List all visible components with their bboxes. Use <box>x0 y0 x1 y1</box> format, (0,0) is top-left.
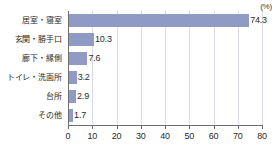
bar-value-label: 3.2 <box>78 71 90 84</box>
x-axis-tick-label: 20 <box>105 131 129 141</box>
chart-row: 台所2.9 <box>0 87 274 106</box>
category-label: 玄関・勝手口 <box>0 30 62 49</box>
chart-row: 玄関・勝手口10.3 <box>0 30 274 49</box>
category-label: 居室・寝室 <box>0 11 62 30</box>
x-axis-tick-label: 60 <box>202 131 226 141</box>
x-axis-tick <box>262 125 263 129</box>
bar-chart: (%) 01020304050607080居室・寝室74.3玄関・勝手口10.3… <box>0 0 274 145</box>
bar <box>69 71 77 84</box>
x-axis-tick <box>165 125 166 129</box>
bar-value-label: 10.3 <box>95 33 112 46</box>
bar-value-label: 2.9 <box>77 90 89 103</box>
x-axis-tick-label: 50 <box>177 131 201 141</box>
x-axis-tick <box>238 125 239 129</box>
x-axis-tick <box>141 125 142 129</box>
chart-row: トイレ・洗面所3.2 <box>0 68 274 87</box>
unit-label: (%) <box>260 2 272 11</box>
bar <box>69 109 73 122</box>
chart-row: 廊下・縁側7.6 <box>0 49 274 68</box>
category-label: 廊下・縁側 <box>0 49 62 68</box>
bar <box>69 14 249 27</box>
x-axis-tick <box>68 125 69 129</box>
x-axis-tick <box>189 125 190 129</box>
x-axis-tick-label: 30 <box>129 131 153 141</box>
bar-value-label: 1.7 <box>74 109 86 122</box>
bar <box>69 33 94 46</box>
bar <box>69 52 87 65</box>
x-axis-tick-label: 40 <box>153 131 177 141</box>
x-axis-tick-label: 70 <box>226 131 250 141</box>
bar <box>69 90 76 103</box>
x-axis-tick-label: 10 <box>80 131 104 141</box>
x-axis-tick <box>117 125 118 129</box>
chart-row: 居室・寝室74.3 <box>0 11 274 30</box>
bar-value-label: 74.3 <box>250 14 267 27</box>
bar-value-label: 7.6 <box>88 52 100 65</box>
x-axis-tick <box>214 125 215 129</box>
category-label: トイレ・洗面所 <box>0 68 62 87</box>
x-axis-tick-label: 80 <box>250 131 274 141</box>
chart-row: その他1.7 <box>0 106 274 125</box>
category-label: 台所 <box>0 87 62 106</box>
x-axis-tick <box>92 125 93 129</box>
x-axis-tick-label: 0 <box>56 131 80 141</box>
category-label: その他 <box>0 106 62 125</box>
